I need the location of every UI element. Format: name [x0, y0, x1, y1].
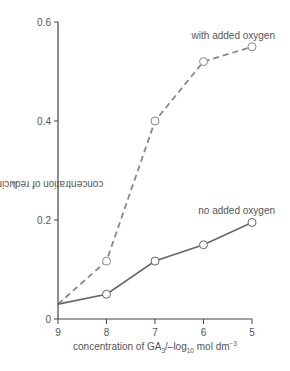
axes: 00.20.40.698765 — [37, 17, 255, 339]
x-tick-label: 8 — [104, 327, 110, 338]
x-tick-label: 5 — [249, 327, 255, 338]
series-group — [58, 43, 256, 304]
y-axis-label: concentration of reducing sugar/mg cm−3 — [2, 60, 32, 310]
y-tick-label: 0.6 — [37, 17, 51, 28]
y-tick-label: 0 — [45, 314, 51, 325]
y-tick-label: 0.4 — [37, 116, 51, 127]
data-point-marker — [200, 58, 208, 66]
series-label-with-oxygen: with added oxygen — [191, 30, 275, 41]
data-point-marker — [248, 43, 256, 51]
data-point-marker — [151, 117, 159, 125]
data-point-marker — [151, 257, 159, 265]
data-point-marker — [103, 257, 111, 265]
x-tick-label: 6 — [201, 327, 207, 338]
x-tick-label: 9 — [55, 327, 61, 338]
series-label-no-oxygen: no added oxygen — [198, 205, 275, 216]
data-point-marker — [103, 290, 111, 298]
data-point-marker — [248, 218, 256, 226]
x-axis-label: concentration of GA3/–log10 mol dm−3 — [58, 340, 252, 354]
y-tick-label: 0.2 — [37, 215, 51, 226]
x-tick-label: 7 — [152, 327, 158, 338]
data-point-marker — [200, 241, 208, 249]
